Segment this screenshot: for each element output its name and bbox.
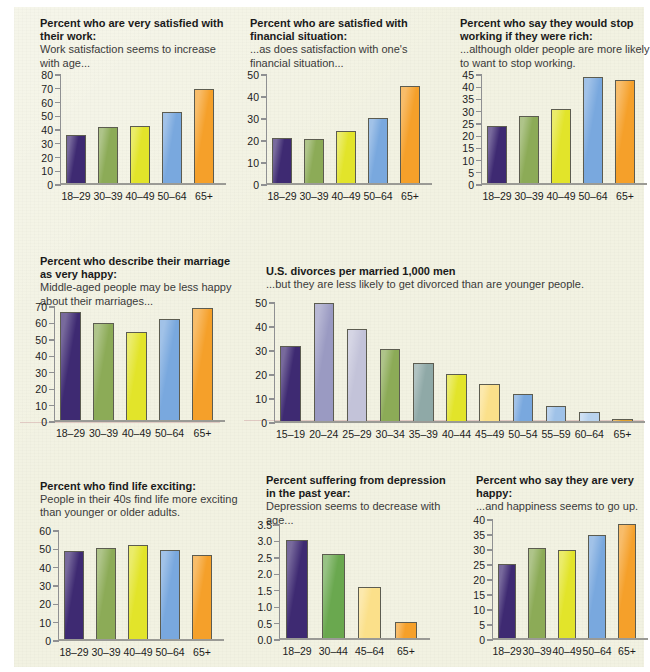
bar[interactable]: [358, 587, 380, 639]
x-axis-tick-label: 18–29: [266, 190, 298, 202]
y-axis-tick-label: 60: [35, 317, 47, 329]
bar-cell: [120, 307, 153, 420]
bar[interactable]: [66, 135, 86, 184]
bar[interactable]: [162, 112, 182, 184]
bar[interactable]: [286, 540, 308, 639]
bar[interactable]: [160, 550, 180, 640]
bar[interactable]: [395, 622, 417, 639]
bar[interactable]: [322, 554, 344, 638]
bar-cell: [315, 525, 351, 638]
bar[interactable]: [96, 548, 116, 640]
bar[interactable]: [93, 323, 113, 420]
bar[interactable]: [513, 394, 534, 421]
x-axis-tick-label: 45–64: [352, 645, 388, 657]
chart-title: Percent who describe their marriage as v…: [40, 255, 240, 281]
bars-container: [492, 520, 642, 638]
bar-cell: [156, 75, 188, 183]
bar[interactable]: [347, 329, 368, 421]
bar[interactable]: [588, 535, 607, 639]
x-axis-tick-label: 18–29: [54, 427, 87, 439]
bar[interactable]: [583, 77, 603, 183]
bar-cell: [440, 303, 473, 421]
chart-header: Percent who say they would stop working …: [460, 17, 650, 70]
y-axis-tick: [55, 184, 61, 185]
bars-container: [58, 531, 218, 639]
y-axis-tick-label: 45: [462, 69, 474, 81]
y-axis-tick-label: 0.5: [257, 618, 272, 630]
bar[interactable]: [60, 312, 80, 421]
bar[interactable]: [498, 564, 517, 638]
bar[interactable]: [519, 116, 539, 183]
x-axis-line: [58, 639, 224, 641]
y-axis-tick-label: 30: [473, 544, 485, 556]
bar[interactable]: [400, 86, 420, 184]
chart-header: Percent who are very satisfied with thei…: [40, 17, 225, 70]
y-axis-tick: [274, 639, 280, 640]
bar[interactable]: [304, 139, 324, 183]
bars-container: [54, 307, 219, 420]
bar[interactable]: [192, 555, 212, 640]
bar[interactable]: [126, 332, 146, 420]
bar[interactable]: [618, 524, 637, 638]
bar-cell: [545, 75, 577, 183]
bar[interactable]: [98, 127, 118, 183]
x-axis-line: [279, 638, 430, 640]
chart-subtitle: ...and happiness seems to go up.: [476, 500, 650, 513]
bar[interactable]: [615, 80, 635, 184]
y-axis-tick-label: 20: [473, 574, 485, 586]
y-axis-tick-label: 10: [473, 604, 485, 616]
y-axis-tick-label: 30: [255, 345, 267, 357]
bar[interactable]: [314, 303, 335, 421]
bar[interactable]: [159, 319, 179, 420]
bar[interactable]: [336, 131, 356, 183]
bar[interactable]: [380, 349, 401, 421]
bar[interactable]: [479, 384, 500, 422]
chart-subtitle: ...as does satisfaction with one's finan…: [250, 43, 446, 69]
bar[interactable]: [558, 550, 577, 639]
bar[interactable]: [128, 545, 148, 640]
bar[interactable]: [192, 308, 212, 421]
bar[interactable]: [446, 374, 467, 421]
bar[interactable]: [612, 419, 633, 421]
y-axis-tick-label: 0: [261, 417, 267, 429]
y-axis-tick-label: 50: [35, 334, 47, 346]
bar-cell: [394, 75, 426, 183]
y-axis-tick-label: 20: [247, 135, 259, 147]
bar[interactable]: [487, 126, 507, 184]
bar[interactable]: [551, 109, 571, 184]
y-axis-tick-label: 3.0: [257, 535, 272, 547]
x-axis-tick-label: 30–39: [513, 190, 545, 202]
bar[interactable]: [368, 118, 388, 183]
y-axis-tick-label: 40: [473, 514, 485, 526]
x-axis-line: [60, 183, 226, 185]
bar[interactable]: [579, 412, 600, 421]
bar[interactable]: [272, 138, 292, 184]
x-axis-labels: 18–2930–3940–4950–6465+: [58, 646, 218, 658]
y-axis-tick-label: 0: [45, 635, 51, 647]
bar-cell: [60, 75, 92, 183]
bar[interactable]: [528, 548, 547, 638]
bar[interactable]: [64, 551, 84, 640]
y-axis-tick-label: 50: [41, 110, 53, 122]
plot-area: 0102030405018–2930–3940–4950–6465+: [266, 75, 426, 185]
bar-cell: [122, 531, 154, 639]
y-axis-tick-label: 10: [247, 157, 259, 169]
infographic-page: Percent who are very satisfied with thei…: [14, 7, 644, 667]
y-axis-tick-label: 35: [473, 529, 485, 541]
x-axis-tick-label: 50–64: [156, 190, 188, 202]
bar[interactable]: [130, 126, 150, 184]
bar[interactable]: [280, 346, 301, 422]
x-axis-tick-label: 45–49: [473, 428, 506, 440]
y-axis-tick-label: 0.0: [257, 634, 272, 646]
bar[interactable]: [194, 89, 214, 183]
bar-cell: [124, 75, 156, 183]
bar-cell: [481, 75, 513, 183]
chart-title: Percent suffering from depression in the…: [266, 474, 446, 500]
bar[interactable]: [413, 363, 434, 421]
bar-cell: [492, 520, 522, 638]
bar[interactable]: [546, 406, 567, 421]
bar-cell: [340, 303, 373, 421]
plot-area: 0102030405060708018–2930–3940–4950–6465+: [60, 75, 220, 185]
y-axis-tick-label: 20: [35, 383, 47, 395]
x-axis-line: [481, 183, 647, 185]
